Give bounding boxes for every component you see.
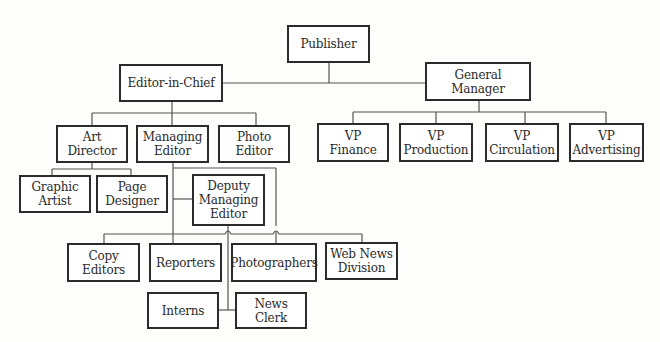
node-vp-production: VP Production [399, 123, 473, 162]
node-news-clerk: News Clerk [235, 292, 307, 329]
node-general-manager: General Manager [425, 62, 531, 101]
node-publisher: Publisher [287, 25, 370, 63]
node-editor-in-chief: Editor-in-Chief [119, 64, 223, 102]
node-photographers: Photographers [231, 243, 317, 282]
node-photo-editor: Photo Editor [218, 125, 290, 163]
node-interns: Interns [147, 292, 219, 329]
org-chart: Publisher Editor-in-Chief General Manage… [0, 0, 660, 342]
node-page-designer: Page Designer [96, 175, 168, 213]
node-web-news-division: Web News Division [325, 242, 398, 280]
node-vp-advertising: VP Advertising [569, 123, 644, 162]
node-managing-editor: Managing Editor [136, 125, 209, 163]
node-graphic-artist: Graphic Artist [19, 175, 91, 213]
node-copy-editors: Copy Editors [67, 243, 140, 282]
node-deputy-managing-editor: Deputy Managing Editor [192, 174, 265, 226]
node-vp-circulation: VP Circulation [485, 123, 559, 162]
node-art-director: Art Director [56, 125, 128, 163]
node-reporters: Reporters [149, 243, 222, 282]
node-vp-finance: VP Finance [317, 123, 389, 162]
